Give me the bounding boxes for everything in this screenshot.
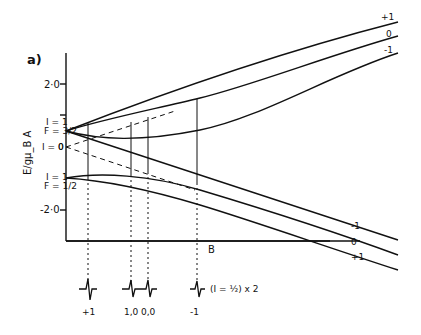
spectrum-label-minus1: -1 [190,307,199,317]
lower-branches [66,175,398,270]
right-label-lower-plus1: +1 [351,252,364,262]
x-axis-label: B [208,245,215,255]
spectrum-label-0-0: 0,0 [141,307,155,317]
spectrum-annotation: (I = ½) x 2 [210,284,258,294]
dotted-drop-lines [88,172,197,283]
label-lower-F: F = 1/2 [44,181,77,191]
y-tick-2: 2·0 [44,80,60,90]
right-label-lower-0: 0 [351,237,357,247]
right-label-upper-plus1: +1 [381,12,394,22]
label-zero-value: 0 [58,142,64,152]
y-tick-neg2: -2·0 [40,205,60,215]
right-label-lower-minus1: -1 [351,221,360,231]
spectrum-lines [79,279,205,300]
label-upper-F: F = 3/2 [44,126,77,136]
spectrum-label-plus1: +1 [82,307,95,317]
right-label-upper-minus1: -1 [384,45,393,55]
spectrum-label-1-0: 1,0 [124,307,138,317]
panel-label: a) [27,55,42,65]
right-label-upper-0: 0 [386,29,392,39]
y-axis-label: E/gμ_B A [22,131,33,175]
upper-branches [66,22,398,240]
